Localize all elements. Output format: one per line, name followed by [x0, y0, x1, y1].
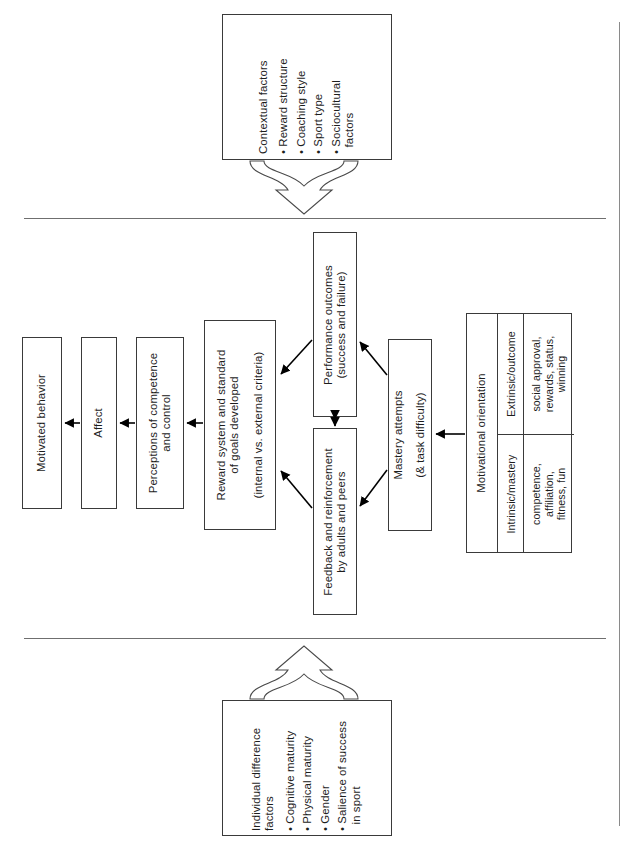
reward-system-box: Reward system and standardof goals devel…: [204, 320, 276, 530]
perceptions-box: Perceptions of competence and control: [136, 337, 184, 509]
individual-block-arrow-icon: [250, 646, 358, 699]
section-divider-top: [24, 218, 606, 219]
orientation-extrinsic-label: Extrinsic/outcome: [504, 318, 517, 430]
mastery-attempts-text: Mastery attempts(& task difficulty): [392, 343, 428, 527]
mastery-attempts-box: Mastery attempts(& task difficulty): [388, 339, 432, 531]
orientation-name-column: Extrinsic/outcome Intrinsic/mastery: [497, 314, 523, 552]
perceptions-label: Perceptions of competence and control: [147, 341, 174, 505]
orientation-row-divider: [498, 434, 524, 435]
arrow-mastery-to-feedback: [360, 470, 387, 506]
orientation-intrinsic-detail: competence, affiliation, fitness, fun: [530, 438, 568, 550]
motivational-orientation-heading-cell: Motivational orientation: [467, 314, 497, 552]
motivated-behavior-label: Motivated behavior: [35, 343, 48, 503]
performance-outcomes-box: Performance outcomes(success and failure…: [313, 232, 357, 417]
orientation-detail-row-divider: [524, 434, 574, 435]
feedback-text: Feedback and reinforcementby adults and …: [322, 432, 349, 612]
arrow-mastery-to-performance-outcomes: [360, 342, 387, 375]
motivated-behavior-box: Motivated behavior: [22, 337, 62, 509]
affect-box: Affect: [81, 337, 117, 509]
arrow-feedback-to-reward-system: [281, 471, 312, 508]
page-edge-rule: [619, 22, 620, 826]
orientation-extrinsic-detail: social approval, rewards, status, winnin…: [530, 318, 568, 430]
individual-difference-factors-box: Individual difference factors• Cognitive…: [222, 700, 392, 836]
contextual-factors-text: Contextual factors• Reward structure• Co…: [257, 20, 357, 154]
orientation-detail-column: social approval, rewards, status, winnin…: [523, 314, 573, 552]
motivational-orientation-table: Motivational orientation Extrinsic/outco…: [466, 313, 572, 553]
section-divider-bottom: [24, 638, 606, 639]
feedback-box: Feedback and reinforcementby adults and …: [313, 428, 357, 615]
arrow-performance-outcomes-to-reward-system: [281, 340, 312, 374]
motivational-orientation-heading: Motivational orientation: [475, 320, 488, 546]
performance-outcomes-text: Performance outcomes(success and failure…: [322, 237, 349, 413]
affect-label: Affect: [92, 343, 105, 503]
individual-difference-factors-text: Individual difference factors• Cognitive…: [250, 705, 363, 831]
orientation-intrinsic-label: Intrinsic/mastery: [504, 438, 517, 550]
contextual-block-arrow-icon: [250, 161, 358, 214]
contextual-factors-box: Contextual factors• Reward structure• Co…: [222, 14, 392, 160]
figure-canvas: Contextual factors• Reward structure• Co…: [0, 0, 632, 848]
reward-system-text: Reward system and standardof goals devel…: [215, 325, 265, 525]
